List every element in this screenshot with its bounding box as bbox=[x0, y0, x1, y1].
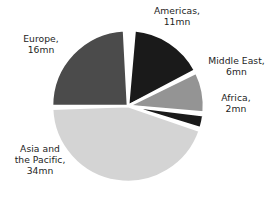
slice-label-africa: Africa, 2mn bbox=[206, 92, 266, 114]
slice-label-asia-pacific: Asia and the Pacific, 34mn bbox=[2, 143, 78, 177]
slice-label-americas: Americas, 11mn bbox=[141, 5, 213, 27]
slice-label-middle-east: Middle East, 6mn bbox=[200, 55, 273, 77]
slice-label-europe: Europe, 16mn bbox=[8, 33, 74, 55]
pie-chart: Americas, 11mn Europe, 16mn Middle East,… bbox=[0, 0, 273, 198]
